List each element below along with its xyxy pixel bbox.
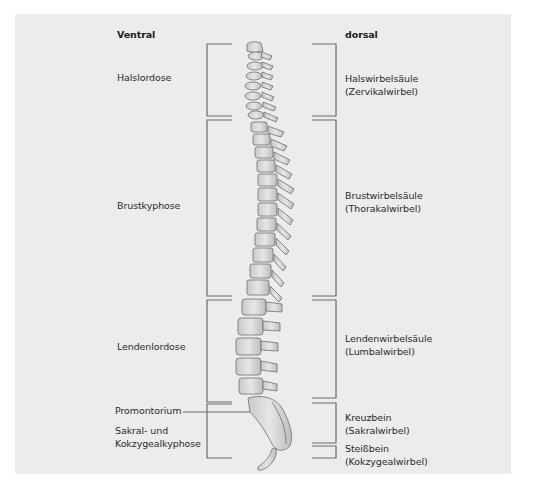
label-hals-line2: (Zervikalwirbel) bbox=[345, 86, 418, 99]
bracket-brustkyphose bbox=[207, 120, 232, 296]
label-sakral-line2: Kokzygealkyphose bbox=[115, 438, 201, 451]
label-steiss-line1: Steißbein bbox=[345, 443, 389, 456]
bracket-hals bbox=[312, 44, 336, 116]
label-steiss-line2: (Kokzygealwirbel) bbox=[345, 456, 428, 469]
vertebral-column bbox=[236, 42, 294, 471]
coccyx bbox=[258, 448, 277, 470]
label-lendenlordose: Lendenlordose bbox=[117, 341, 185, 354]
cervical-vertebrae bbox=[245, 42, 278, 122]
sacrum bbox=[248, 396, 292, 450]
spine-diagram bbox=[0, 0, 539, 492]
thoracic-vertebrae bbox=[247, 122, 294, 302]
bracket-lenden bbox=[312, 300, 336, 398]
bracket-halslordose bbox=[207, 44, 232, 116]
label-halslordose: Halslordose bbox=[117, 72, 171, 85]
label-promontorium: Promontorium bbox=[115, 405, 181, 418]
label-lenden-line1: Lendenwirbelsäule bbox=[345, 333, 432, 346]
lumbar-vertebrae bbox=[236, 299, 282, 394]
header-ventral: Ventral bbox=[117, 29, 155, 42]
label-lenden-line2: (Lumbalwirbel) bbox=[345, 346, 415, 359]
bracket-steiss bbox=[312, 446, 336, 458]
label-kreuz-line2: (Sakralwirbel) bbox=[345, 425, 410, 438]
label-brust-line1: Brustwirbelsäule bbox=[345, 190, 423, 203]
header-dorsal: dorsal bbox=[345, 29, 378, 42]
promontorium-pointer bbox=[183, 398, 252, 412]
label-sakral-line1: Sakral- und bbox=[115, 425, 168, 438]
bracket-brust bbox=[312, 120, 336, 296]
bracket-kreuz bbox=[312, 403, 336, 443]
label-brust-line2: (Thorakalwirbel) bbox=[345, 203, 421, 216]
left-brackets bbox=[183, 44, 252, 458]
label-kreuz-line1: Kreuzbein bbox=[345, 412, 391, 425]
right-brackets bbox=[312, 44, 336, 458]
label-brustkyphose: Brustkyphose bbox=[117, 200, 180, 213]
bracket-lendenlordose bbox=[207, 300, 232, 402]
label-hals-line1: Halswirbelsäule bbox=[345, 73, 418, 86]
